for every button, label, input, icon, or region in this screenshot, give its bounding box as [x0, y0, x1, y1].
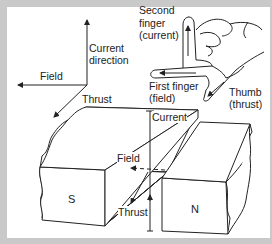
current-direction-label: Currentdirection: [89, 42, 129, 66]
magnet-thrust-label: Thrust: [118, 206, 148, 218]
wire-current-label: Current: [152, 111, 187, 123]
field-label: Field: [40, 70, 63, 82]
north-pole-label: N: [191, 203, 199, 215]
axes-diagram: [18, 20, 87, 117]
second-finger-label: Secondfinger(current): [139, 4, 179, 42]
thrust-label: Thrust: [82, 93, 112, 105]
thumb-label: Thumb(thrust): [229, 86, 262, 110]
first-finger-label: First finger(field): [149, 80, 199, 104]
magnet-field-label: Field: [117, 152, 140, 164]
south-pole-label: S: [68, 193, 75, 205]
